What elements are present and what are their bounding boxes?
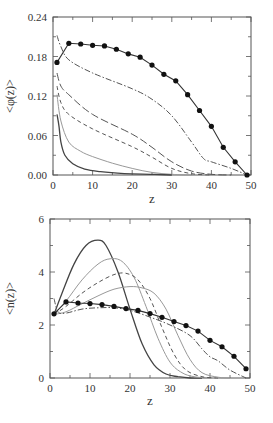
data-point-marker (147, 311, 152, 316)
data-point-marker (123, 306, 128, 311)
data-point-marker (75, 300, 80, 305)
data-point-marker (233, 159, 238, 164)
y-tick-label: 0 (39, 372, 45, 384)
data-point-marker (78, 41, 83, 46)
n-chart: 010203040500246z<n(z)> (3, 213, 256, 408)
data-point-marker (149, 62, 154, 67)
x-tick-label: 40 (206, 179, 218, 191)
data-point-marker (207, 338, 212, 343)
data-point-marker (244, 172, 249, 177)
y-tick-label: 0.00 (28, 169, 48, 181)
data-point-marker (126, 51, 131, 56)
data-point-marker (87, 301, 92, 306)
y-axis-label: <n(z)> (3, 282, 17, 315)
series-thick-solid (57, 114, 172, 175)
figure: 010203040500.000.060.120.180.24z<φ(z)> 0… (0, 0, 273, 423)
data-point-marker (221, 145, 226, 150)
data-point-marker (219, 344, 224, 349)
y-axis-label: <φ(z)> (3, 79, 17, 113)
data-point-marker (173, 78, 178, 83)
data-point-marker (171, 319, 176, 324)
plot-frame (53, 17, 251, 175)
data-point-marker (231, 354, 236, 359)
data-point-marker (135, 308, 140, 313)
phi-chart: 010203040500.000.060.120.180.24z<φ(z)> (3, 11, 257, 206)
x-tick-label: 30 (165, 382, 177, 394)
y-tick-label: 0.06 (28, 130, 48, 142)
x-tick-label: 20 (125, 382, 137, 394)
y-tick-label: 6 (39, 213, 45, 225)
series-thin-solid-2 (54, 287, 230, 378)
data-point-marker (63, 299, 68, 304)
x-tick-label: 0 (50, 179, 56, 191)
data-point-marker (90, 43, 95, 48)
data-point-marker (114, 47, 119, 52)
y-tick-label: 0.18 (28, 51, 48, 63)
data-point-marker (66, 41, 71, 46)
x-tick-label: 50 (245, 382, 257, 394)
x-tick-label: 10 (85, 382, 97, 394)
x-tick-label: 30 (166, 179, 178, 191)
data-point-marker (99, 302, 104, 307)
x-axis-label: z (147, 393, 153, 408)
x-axis-label: z (149, 191, 155, 206)
series-dash-dot (54, 299, 246, 379)
data-point-marker (54, 60, 59, 65)
data-point-marker (161, 72, 166, 77)
data-point-marker (183, 323, 188, 328)
x-tick-label: 20 (127, 179, 139, 191)
y-tick-label: 0.24 (28, 11, 48, 23)
data-point-marker (138, 55, 143, 60)
data-point-marker (197, 108, 202, 113)
y-tick-label: 4 (39, 266, 45, 278)
data-point-marker (195, 328, 200, 333)
series-thin-solid-1 (54, 259, 210, 378)
data-point-marker (102, 43, 107, 48)
data-point-marker (111, 304, 116, 309)
data-point-marker (51, 311, 56, 316)
data-point-marker (243, 366, 248, 371)
y-tick-label: 2 (39, 319, 45, 331)
series-thin-solid (57, 95, 192, 175)
data-point-marker (159, 315, 164, 320)
series-short-dash (57, 86, 211, 175)
x-tick-label: 50 (246, 179, 258, 191)
data-point-marker (209, 124, 214, 129)
x-tick-label: 10 (87, 179, 99, 191)
data-point-marker (185, 92, 190, 97)
x-tick-label: 40 (205, 382, 217, 394)
y-tick-label: 0.12 (28, 90, 47, 102)
x-tick-label: 0 (47, 382, 53, 394)
